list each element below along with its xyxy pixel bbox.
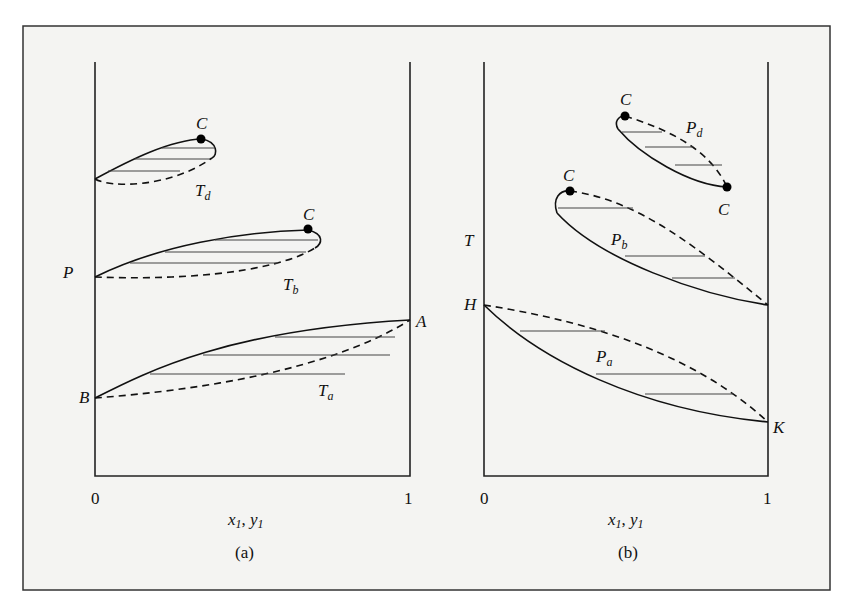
label-H: H bbox=[463, 295, 478, 314]
panel-a-caption: (a) bbox=[235, 543, 254, 562]
panel-b-caption: (b) bbox=[618, 543, 638, 562]
label-C-Tb: C bbox=[303, 205, 315, 224]
figure-frame bbox=[23, 26, 830, 590]
y-axis-label-T: T bbox=[464, 231, 475, 250]
critical-point-Tb bbox=[304, 225, 313, 234]
label-K: K bbox=[772, 418, 786, 437]
x-tick-1: 1 bbox=[763, 489, 772, 508]
phase-diagram-figure: C C A B P Td Tb Ta 0 1 x1, y1 (a) bbox=[0, 0, 850, 608]
label-C-Pd-lower: C bbox=[718, 200, 730, 219]
y-axis-label-P: P bbox=[62, 263, 73, 282]
label-C-Pd-upper: C bbox=[620, 90, 632, 109]
critical-point-Pb bbox=[566, 187, 575, 196]
critical-point-Pd-upper bbox=[621, 112, 630, 121]
label-B: B bbox=[79, 388, 90, 407]
x-tick-0: 0 bbox=[480, 489, 489, 508]
critical-point-Td bbox=[197, 135, 206, 144]
x-tick-0: 0 bbox=[91, 489, 100, 508]
label-C-Pb: C bbox=[563, 166, 575, 185]
x-tick-1: 1 bbox=[404, 489, 413, 508]
critical-point-Pd-lower bbox=[723, 183, 732, 192]
label-C-Td: C bbox=[196, 114, 208, 133]
label-A: A bbox=[415, 312, 427, 331]
